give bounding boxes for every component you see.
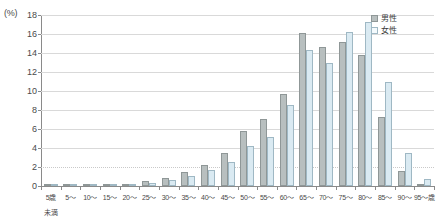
bar-female xyxy=(247,146,254,186)
x-axis-tick-mark xyxy=(80,186,81,190)
bar-female xyxy=(424,179,431,186)
y-axis-tick-mark xyxy=(38,148,41,149)
bar-male xyxy=(103,184,110,186)
x-axis-tick-mark xyxy=(120,186,121,190)
bar-group xyxy=(80,15,100,186)
y-axis-tick-label: 6 xyxy=(13,124,37,134)
x-axis-tick-mark xyxy=(277,186,278,190)
x-axis-tick-label: 50～ xyxy=(240,192,254,202)
x-axis-tick-label: 55～ xyxy=(260,192,274,202)
x-axis-tick-label: 20～ xyxy=(122,192,136,202)
bar-female xyxy=(129,184,136,186)
bar-male xyxy=(83,184,90,186)
y-axis-tick-label: 0 xyxy=(13,181,37,191)
bar-group xyxy=(41,15,61,186)
legend-item-female[interactable]: 女性 xyxy=(371,25,397,36)
x-axis-tick-label: 25～ xyxy=(142,192,156,202)
y-axis-tick-label: 16 xyxy=(13,29,37,39)
y-axis-tick-mark xyxy=(38,110,41,111)
bar-female xyxy=(51,184,58,186)
legend: 男性 女性 xyxy=(371,13,397,37)
x-axis-tick-mark xyxy=(179,186,180,190)
legend-item-male[interactable]: 男性 xyxy=(371,13,397,24)
bar-male xyxy=(162,178,169,186)
bar-female xyxy=(70,184,77,186)
x-axis-tick-mark xyxy=(159,186,160,190)
bar-group xyxy=(238,15,258,186)
x-axis-tick-label: 30～ xyxy=(162,192,176,202)
bar-group xyxy=(395,15,415,186)
y-axis-tick-mark xyxy=(38,53,41,54)
bar-male xyxy=(63,184,70,186)
bar-male xyxy=(417,184,424,186)
bar-group xyxy=(277,15,297,186)
bar-male xyxy=(339,42,346,186)
bar-female xyxy=(188,176,195,186)
x-axis-tick-mark xyxy=(395,186,396,190)
x-axis-tick-mark xyxy=(414,186,415,190)
x-axis-tick-mark xyxy=(355,186,356,190)
legend-label-male: 男性 xyxy=(381,13,397,24)
x-axis-tick-label: 70～ xyxy=(319,192,333,202)
bar-chart: (%) 024681012141618 5歳未満5～10～15～20～25～30… xyxy=(0,0,438,224)
y-axis-tick-mark xyxy=(38,34,41,35)
bar-female xyxy=(169,180,176,186)
bar-group xyxy=(159,15,179,186)
x-axis-tick-mark xyxy=(198,186,199,190)
x-axis-tick-label: 60～ xyxy=(280,192,294,202)
bar-group xyxy=(120,15,140,186)
bar-group xyxy=(179,15,199,186)
y-axis-tick-mark xyxy=(38,91,41,92)
x-axis-tick-label: 65～ xyxy=(299,192,313,202)
bar-male xyxy=(221,153,228,186)
y-axis-tick-label: 14 xyxy=(13,48,37,58)
y-axis-tick-mark xyxy=(38,72,41,73)
x-axis-tick-label: 15～ xyxy=(103,192,117,202)
bars-layer xyxy=(41,15,434,186)
bar-female xyxy=(228,162,235,186)
bar-male xyxy=(44,184,51,186)
x-axis-tick-label: 95～歳 xyxy=(414,192,435,202)
y-axis-tick-label: 2 xyxy=(13,162,37,172)
y-axis-tick-mark xyxy=(38,129,41,130)
bar-female xyxy=(365,22,372,186)
bar-female xyxy=(306,50,313,186)
bar-group xyxy=(296,15,316,186)
x-axis-tick-mark xyxy=(139,186,140,190)
y-axis-tick-label: 18 xyxy=(13,10,37,20)
x-axis-tick-mark xyxy=(100,186,101,190)
bar-female xyxy=(208,170,215,186)
x-axis-tick-mark xyxy=(257,186,258,190)
x-axis-tick-label-secondary: 未満 xyxy=(44,207,57,217)
bar-female xyxy=(267,137,274,186)
y-axis-tick-label: 10 xyxy=(13,86,37,96)
bar-male xyxy=(280,94,287,186)
legend-label-female: 女性 xyxy=(381,25,397,36)
x-axis-tick-mark xyxy=(316,186,317,190)
bar-group xyxy=(218,15,238,186)
x-axis-tick-mark xyxy=(41,186,42,190)
legend-swatch-female-icon xyxy=(371,27,378,34)
x-axis-tick-mark xyxy=(375,186,376,190)
x-axis-tick-label: 75～ xyxy=(339,192,353,202)
legend-swatch-male-icon xyxy=(371,15,378,22)
bar-female xyxy=(149,183,156,186)
x-axis-tick-label: 5～ xyxy=(65,192,75,202)
bar-male xyxy=(181,172,188,186)
bar-male xyxy=(260,119,267,186)
bar-group xyxy=(336,15,356,186)
x-axis-tick-label: 85～ xyxy=(378,192,392,202)
y-axis-tick-label: 12 xyxy=(13,67,37,77)
y-axis-tick-mark xyxy=(38,15,41,16)
bar-male xyxy=(201,165,208,186)
x-axis-tick-label: 45～ xyxy=(221,192,235,202)
x-axis-tick-label: 90～ xyxy=(398,192,412,202)
y-axis-tick-mark xyxy=(38,167,41,168)
x-axis-tick-label: 35～ xyxy=(181,192,195,202)
bar-male xyxy=(299,33,306,186)
bar-group xyxy=(100,15,120,186)
bar-female xyxy=(110,184,117,186)
x-axis-tick-label: 10～ xyxy=(83,192,97,202)
plot-area xyxy=(41,15,434,186)
bar-female xyxy=(346,32,353,186)
